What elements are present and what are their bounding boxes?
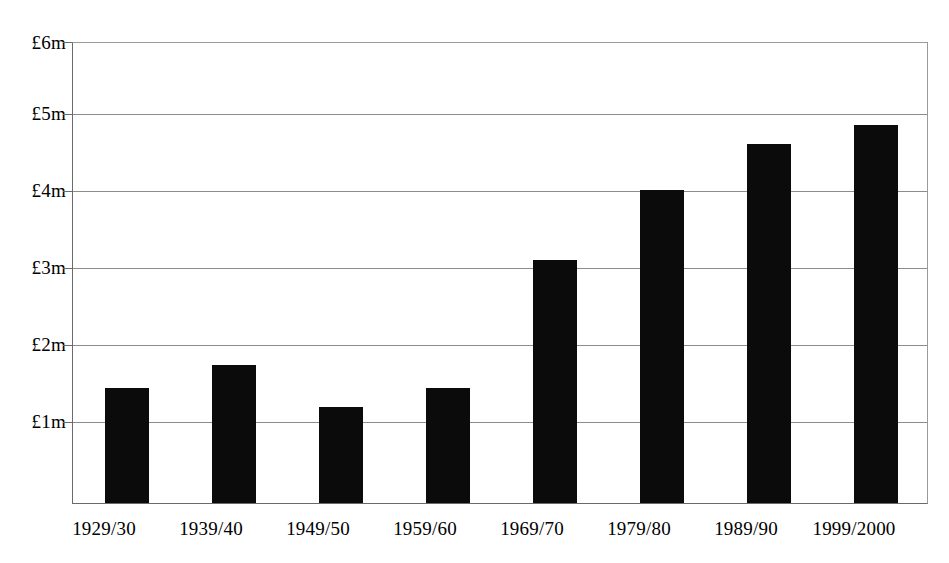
y-tick-mark-6m <box>63 42 72 43</box>
y-tick-mark-5m <box>63 114 72 115</box>
bar-1969-70 <box>533 260 577 503</box>
gridline-5m <box>73 114 927 115</box>
bar-chart: £6m £5m £4m £3m £2m £1m 1929/30 1939/40 … <box>0 0 949 563</box>
x-tick-label-1959-60: 1959/60 <box>365 516 485 542</box>
x-tick-label-1979-80: 1979/80 <box>579 516 699 542</box>
y-tick-label-4m: £4m <box>2 181 66 200</box>
bar-1959-60 <box>426 388 470 503</box>
y-tick-label-6m: £6m <box>2 33 66 52</box>
plot-area <box>72 42 928 504</box>
x-tick-label-1989-90: 1989/90 <box>686 516 806 542</box>
y-tick-label-1m: £1m <box>2 412 66 431</box>
x-tick-label-1969-70: 1969/70 <box>472 516 592 542</box>
y-tick-label-2m: £2m <box>2 335 66 354</box>
bar-1939-40 <box>212 365 256 503</box>
bar-1999-2000 <box>854 125 898 503</box>
bar-1989-90 <box>747 144 791 503</box>
x-tick-label-1939-40: 1939/40 <box>151 516 271 542</box>
x-axis: 1929/30 1939/40 1949/50 1959/60 1969/70 … <box>0 516 949 556</box>
gridline-2m <box>73 345 927 346</box>
bar-1949-50 <box>319 407 363 503</box>
x-tick-label-1949-50: 1949/50 <box>258 516 378 542</box>
gridline-4m <box>73 191 927 192</box>
y-tick-mark-2m <box>63 345 72 346</box>
y-tick-label-5m: £5m <box>2 104 66 123</box>
bar-1929-30 <box>105 388 149 503</box>
x-tick-label-1999-2000: 1999/2000 <box>790 516 918 542</box>
y-tick-mark-1m <box>63 422 72 423</box>
y-tick-mark-4m <box>63 191 72 192</box>
x-tick-label-1929-30: 1929/30 <box>44 516 164 542</box>
y-tick-mark-3m <box>63 268 72 269</box>
gridline-1m <box>73 422 927 423</box>
y-axis: £6m £5m £4m £3m £2m £1m <box>0 0 66 563</box>
bar-1979-80 <box>640 190 684 503</box>
gridline-3m <box>73 268 927 269</box>
y-tick-label-3m: £3m <box>2 258 66 277</box>
